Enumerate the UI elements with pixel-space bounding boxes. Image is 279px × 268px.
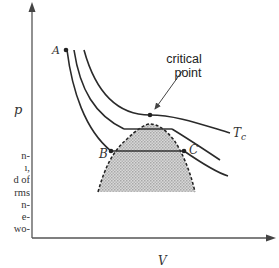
x-axis-label: V xyxy=(158,254,168,268)
point-C-dot xyxy=(182,149,187,154)
text-line: n- xyxy=(0,199,30,211)
text-line: d of xyxy=(0,174,30,186)
point-C-label: C xyxy=(189,143,198,157)
text-line: rms xyxy=(0,187,30,199)
text-line: wo- xyxy=(0,223,30,235)
point-A-dot xyxy=(64,48,69,53)
point-B-dot xyxy=(109,149,114,154)
text-line: n- xyxy=(0,150,30,162)
point-B-label: B xyxy=(98,147,108,161)
isotherm-critical xyxy=(84,50,230,133)
cropped-body-text: n- ı, d of rms n- e- wo- xyxy=(0,150,30,235)
text-line: ı, xyxy=(0,162,30,174)
y-axis-label: p xyxy=(14,102,23,117)
critical-label-line2: point xyxy=(174,66,202,80)
diagram-canvas: A B C p V Tc critical point xyxy=(0,0,279,268)
text-line: e- xyxy=(0,211,30,223)
tc-label: Tc xyxy=(233,126,246,142)
x-axis-arrow-icon xyxy=(266,235,276,242)
critical-label-line1: critical xyxy=(166,52,201,66)
critical-point-dot xyxy=(148,113,153,118)
pv-diagram: A B C p V Tc critical point n- ı, d of r… xyxy=(0,0,279,268)
y-axis-arrow-icon xyxy=(29,2,36,12)
point-A-label: A xyxy=(51,44,60,57)
